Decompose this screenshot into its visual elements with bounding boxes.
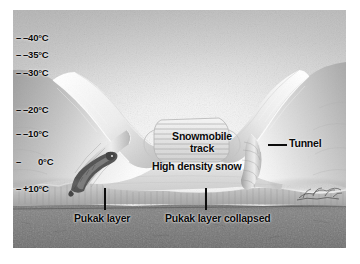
tick-dash-icon: – — [16, 157, 38, 167]
illustration-canvas: ––40°C ––35°C ––30°C ––20°C ––10°C –0°C … — [13, 10, 346, 248]
label-pukak-layer-collapsed: Pukak layer collapsed — [165, 213, 271, 224]
tick-dash-icon: – — [16, 50, 23, 60]
leader-line-pukak-layer — [104, 188, 106, 210]
leader-line-tunnel — [268, 144, 287, 146]
label-tunnel: Tunnel — [289, 138, 321, 149]
label-snowmobile-track: Snowmobile track — [165, 130, 239, 154]
tick-dash-icon: – — [16, 184, 23, 194]
tick-dash-icon: – — [16, 129, 23, 139]
temp-tick--40: ––40°C — [16, 33, 49, 43]
temp-tick--10: ––10°C — [16, 129, 49, 139]
label-snowmobile-track-line2: track — [165, 142, 239, 154]
tick-dash-icon: – — [16, 68, 23, 78]
label-high-density-snow: High density snow — [152, 161, 241, 172]
temp-tick--20: ––20°C — [16, 105, 49, 115]
temp-tick--30: ––30°C — [16, 68, 49, 78]
label-snowmobile-track-line1: Snowmobile — [165, 130, 239, 142]
label-pukak-layer: Pukak layer — [74, 213, 130, 224]
tick-dash-icon: – — [16, 105, 23, 115]
leader-line-pukak-layer-collapsed — [205, 188, 207, 210]
temp-tick--35: ––35°C — [16, 50, 49, 60]
tick-dash-icon: – — [16, 33, 23, 43]
figure-frame: ––40°C ––35°C ––30°C ––20°C ––10°C –0°C … — [0, 0, 360, 264]
temp-tick-0: –0°C — [16, 157, 53, 167]
temp-tick-+10: –+10°C — [16, 184, 49, 194]
